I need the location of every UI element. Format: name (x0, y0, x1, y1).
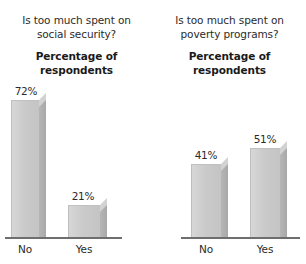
bar-top-edge (11, 100, 39, 101)
bar-value-label: 72% (6, 85, 46, 97)
two-panel-bar-chart-figure: Is too much spent on social security? Pe… (0, 0, 306, 264)
bar-value-label: 51% (245, 133, 285, 145)
category-label-yes: Yes (245, 243, 285, 256)
category-label-no: No (186, 243, 226, 256)
bar-side-face (221, 164, 228, 237)
baseline-axis (181, 237, 300, 239)
bar-no (11, 100, 39, 237)
plot-area: 41% No 51% Yes (153, 0, 306, 264)
bar-top-edge (250, 148, 280, 149)
bar-top-edge (68, 205, 100, 206)
bar-yes (250, 148, 280, 237)
bar-yes (68, 205, 100, 237)
bar-no (191, 164, 221, 237)
category-label-no: No (5, 243, 45, 256)
bar-value-label: 21% (63, 190, 103, 202)
plot-area: 72% No 21% Yes (0, 0, 153, 264)
bar-front-face (191, 164, 222, 237)
baseline-axis (5, 237, 122, 239)
bar-value-label: 41% (186, 149, 226, 161)
bar-top-edge (191, 164, 221, 165)
chart-panel-social-security: Is too much spent on social security? Pe… (0, 0, 153, 264)
category-label-yes: Yes (64, 243, 104, 256)
bar-front-face (250, 148, 281, 237)
bar-front-face (11, 100, 40, 237)
bar-front-face (68, 205, 101, 237)
bar-side-face (39, 100, 46, 237)
chart-panel-poverty-programs: Is too much spent on poverty programs? P… (153, 0, 306, 264)
bar-side-face (280, 148, 287, 237)
